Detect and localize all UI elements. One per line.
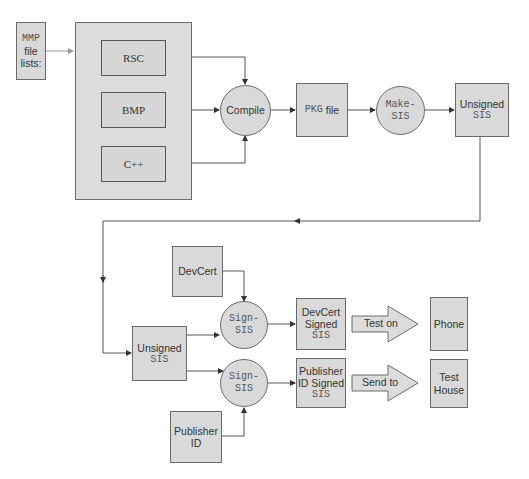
rsc-box: RSC [101,40,166,76]
pkg-file-box: PKG file [296,83,348,137]
sis-label: SIS [312,330,330,342]
id-signed-label: ID Signed [298,377,344,389]
sis-label: SIS [391,111,409,123]
sis-label: SIS [150,354,168,366]
pkg-file-label: file [326,104,339,116]
send-to-label: Send to [362,376,398,388]
publisher-label: Publisher [174,425,218,437]
bmp-box: BMP [101,92,166,128]
make-label: Make- [385,99,415,111]
sis-label: SIS [235,325,253,337]
mmp-file-lists-box: MMP file lists: [16,22,46,80]
house-label: House [434,384,464,396]
sis-label: SIS [235,383,253,395]
devcert-label: DevCert [178,265,217,277]
sis-label: SIS [473,110,491,122]
test-house-box: Test House [430,359,468,408]
publisher-id-box: Publisher ID [170,411,222,463]
mmp-lists-label: lists: [21,57,42,69]
make-sis-circle: Make- SIS [376,86,425,135]
mmp-label: MMP [22,33,40,45]
unsigned-label: Unsigned [137,342,181,354]
sis-label: SIS [312,389,330,401]
id-label: ID [191,437,202,449]
compile-label: Compile [226,104,265,117]
sign-label: Sign- [229,371,259,383]
unsigned-sis-top-box: Unsigned SIS [455,83,509,137]
sign-sis-bottom-circle: Sign- SIS [220,359,268,407]
test-on-label: Test on [364,317,398,329]
unsigned-label: Unsigned [460,98,504,110]
sign-label: Sign- [229,313,259,325]
compile-circle: Compile [220,85,271,136]
phone-label: Phone [434,318,464,330]
bmp-label: BMP [122,104,145,116]
unsigned-sis-bottom-box: Unsigned SIS [132,326,187,381]
cpp-box: C++ [101,146,166,182]
test-label: Test [439,371,458,383]
rsc-label: RSC [123,52,144,64]
cpp-label: C++ [124,158,144,170]
sign-sis-top-circle: Sign- SIS [220,301,268,349]
devcert-signed-sis-box: DevCert Signed SIS [296,298,346,350]
pkg-mono-label: PKG [305,104,323,116]
signed-label: Signed [305,318,338,330]
publisher-id-signed-sis-box: Publisher ID Signed SIS [296,358,346,408]
devcert-label: DevCert [302,306,341,318]
phone-box: Phone [430,297,468,351]
devcert-box: DevCert [172,246,223,297]
publisher-label: Publisher [299,365,343,377]
mmp-file-label: file [24,45,37,57]
